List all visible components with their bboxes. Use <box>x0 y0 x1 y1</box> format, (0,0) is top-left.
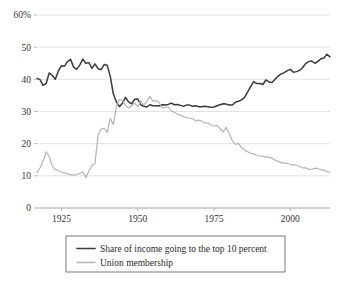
x-tick-label-1975: 1975 <box>205 214 224 224</box>
y-tick-label-50: 50 <box>22 43 32 53</box>
x-tick-label-1950: 1950 <box>128 214 147 224</box>
y-tick-label-0: 0 <box>26 203 31 213</box>
chart-figure: 0102030405060% 1925195019752000 Share of… <box>0 0 337 285</box>
y-tick-label-10: 10 <box>22 171 32 181</box>
legend-label-income-share: Share of income going to the top 10 perc… <box>100 244 267 254</box>
legend-label-union-membership: Union membership <box>100 258 173 268</box>
x-tick-label-1925: 1925 <box>52 214 71 224</box>
y-tick-label-60: 60% <box>14 10 32 20</box>
y-tick-label-40: 40 <box>22 75 32 85</box>
y-tick-label-20: 20 <box>22 139 32 149</box>
y-tick-label-30: 30 <box>22 107 32 117</box>
chart-background <box>0 0 337 285</box>
x-tick-label-2000: 2000 <box>281 214 300 224</box>
